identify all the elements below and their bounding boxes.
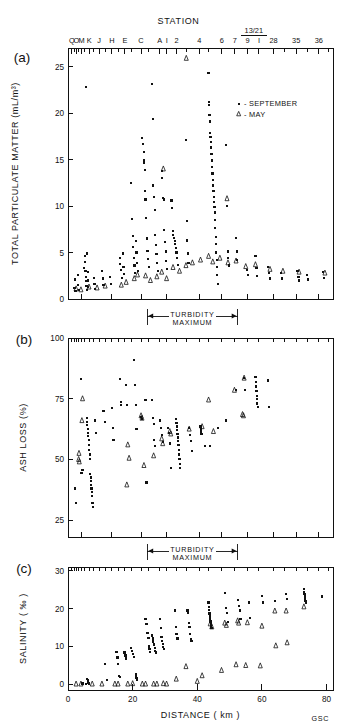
y-axis-title: TOTAL PARTICULATE MATTER (mL/m³) bbox=[10, 82, 20, 265]
turbidity-maximum-annotation: TURBIDITYMAXIMUM bbox=[147, 544, 237, 562]
data-point bbox=[177, 268, 181, 273]
data-point bbox=[135, 404, 137, 406]
data-point bbox=[112, 427, 114, 429]
data-point bbox=[172, 234, 174, 236]
data-point bbox=[151, 399, 153, 401]
data-point bbox=[103, 283, 107, 288]
data-point bbox=[188, 622, 190, 624]
series-september bbox=[81, 588, 322, 685]
data-point bbox=[226, 205, 228, 207]
figure-container: 0510152025QOMKJHECAI24679I28353613/21STA… bbox=[0, 0, 353, 722]
data-point bbox=[143, 159, 145, 161]
data-point bbox=[147, 258, 149, 260]
data-point bbox=[84, 255, 86, 257]
data-point bbox=[210, 146, 212, 148]
data-point bbox=[159, 618, 161, 620]
data-point bbox=[256, 398, 258, 400]
data-point bbox=[321, 595, 323, 597]
data-point bbox=[189, 633, 191, 635]
data-point bbox=[126, 404, 128, 406]
data-point bbox=[89, 453, 91, 455]
data-point bbox=[162, 643, 164, 645]
data-point bbox=[281, 268, 285, 273]
data-point bbox=[218, 255, 222, 260]
data-point bbox=[85, 276, 87, 278]
y-axis-title: SALINITY ( ‰ ) bbox=[18, 593, 28, 664]
data-point bbox=[135, 673, 137, 675]
data-point bbox=[209, 445, 211, 447]
panel-a: 0510152025QOMKJHECAI24679I28353613/21STA… bbox=[10, 16, 333, 304]
station-label: A bbox=[157, 36, 162, 45]
data-point bbox=[163, 198, 165, 200]
data-point bbox=[135, 677, 137, 679]
data-point bbox=[119, 378, 121, 380]
data-point bbox=[186, 220, 188, 222]
data-point bbox=[155, 651, 157, 653]
data-point bbox=[80, 378, 82, 380]
data-point bbox=[216, 259, 218, 261]
data-point bbox=[144, 198, 146, 200]
data-point bbox=[100, 681, 104, 686]
data-point bbox=[152, 640, 154, 642]
data-point bbox=[187, 612, 189, 614]
data-point bbox=[147, 637, 149, 639]
data-point bbox=[121, 277, 123, 279]
data-point bbox=[136, 679, 138, 681]
data-point bbox=[236, 250, 238, 252]
data-point bbox=[176, 257, 178, 259]
data-point bbox=[132, 235, 134, 237]
data-point bbox=[188, 626, 190, 628]
data-point bbox=[86, 417, 88, 419]
arrow-head-right bbox=[232, 314, 237, 319]
data-point bbox=[101, 270, 103, 272]
data-point bbox=[134, 384, 136, 386]
data-point bbox=[254, 255, 256, 257]
data-point bbox=[215, 243, 217, 245]
data-point bbox=[211, 259, 215, 264]
data-point bbox=[262, 601, 264, 603]
data-point bbox=[119, 282, 123, 287]
data-point bbox=[120, 269, 122, 271]
station-axis-title: STATION bbox=[158, 16, 200, 26]
data-point bbox=[74, 278, 76, 280]
y-tick-label: 10 bbox=[55, 202, 65, 211]
data-point bbox=[260, 623, 264, 628]
data-point bbox=[88, 682, 90, 684]
station-label: 2 bbox=[175, 36, 179, 45]
data-point bbox=[304, 600, 306, 602]
data-point bbox=[161, 166, 165, 171]
data-point bbox=[126, 681, 130, 686]
data-point bbox=[90, 480, 92, 482]
data-point bbox=[273, 608, 277, 613]
data-point bbox=[144, 681, 148, 686]
data-point bbox=[85, 280, 87, 282]
data-point bbox=[255, 385, 257, 387]
series-may bbox=[77, 375, 246, 487]
data-point bbox=[164, 241, 166, 243]
data-point bbox=[159, 419, 161, 421]
data-point bbox=[127, 455, 131, 460]
station-label: 9 bbox=[246, 36, 250, 45]
data-point bbox=[189, 434, 191, 436]
panel-letter: (b) bbox=[16, 332, 33, 347]
station-label: H bbox=[109, 36, 114, 45]
data-point bbox=[88, 439, 90, 441]
y-tick-label: 5 bbox=[59, 249, 64, 258]
data-point bbox=[244, 663, 248, 668]
data-point bbox=[212, 190, 214, 192]
data-point bbox=[286, 598, 288, 600]
data-point bbox=[215, 251, 217, 253]
data-point bbox=[155, 274, 159, 279]
arrow-head-right bbox=[232, 549, 237, 554]
data-point bbox=[175, 418, 177, 420]
station-label: 7 bbox=[233, 36, 237, 45]
station-label: 36 bbox=[315, 36, 323, 45]
station-label: 35 bbox=[292, 36, 300, 45]
turbidity-label-line2: MAXIMUM bbox=[173, 553, 213, 562]
data-point bbox=[154, 647, 156, 649]
data-point bbox=[213, 201, 215, 203]
data-point bbox=[77, 284, 79, 286]
data-point bbox=[244, 389, 246, 391]
data-point bbox=[94, 419, 96, 421]
data-point bbox=[141, 137, 143, 139]
